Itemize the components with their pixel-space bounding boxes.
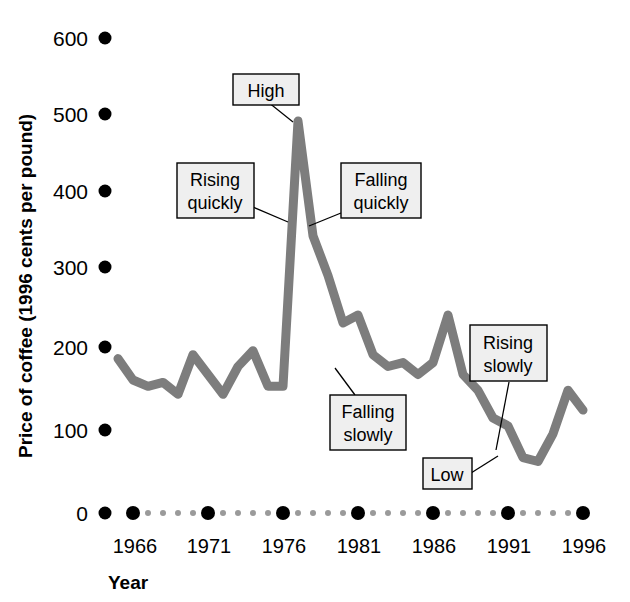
y-tick-500: 500 [53,103,112,126]
leader-falling-slowly [335,368,355,395]
x-tick-dot-1996 [576,506,590,520]
annotation-falling-slowly-line2: slowly [343,425,392,445]
x-minor-dot [565,510,571,516]
x-minor-dot [340,510,346,516]
y-axis: 600 500 400 300 200 100 [53,27,112,525]
x-minor-dot [400,510,406,516]
x-axis-baseline [126,506,590,520]
annotation-rising-slowly-line2: slowly [483,356,532,376]
y-tick-100: 100 [53,419,112,442]
y-tick-label-100: 100 [53,419,88,442]
annotation-falling-quickly[interactable]: Falling quickly [341,163,421,218]
annotation-rising-quickly[interactable]: Rising quickly [177,163,254,218]
x-tick-label-1996: 1996 [562,535,607,557]
y-axis-title: Price of coffee (1996 cents per pound) [15,114,36,458]
annotation-high[interactable]: High [233,74,299,105]
x-minor-dot [475,510,481,516]
x-minor-dot [220,510,226,516]
x-tick-dot-1966 [126,506,140,520]
x-minor-dot [235,510,241,516]
coffee-price-chart: 600 500 400 300 200 100 [0,0,630,602]
x-minor-dot [490,510,496,516]
x-minor-dot [145,510,151,516]
x-tick-dot-1981 [351,506,365,520]
x-minor-dot [445,510,451,516]
annotation-falling-slowly-line1: Falling [341,402,394,422]
annotation-rising-quickly-line2: quickly [187,193,242,213]
y-tick-300: 300 [53,256,112,279]
x-minor-dot [370,510,376,516]
x-tick-label-1966: 1966 [113,535,158,557]
annotation-low[interactable]: Low [423,458,472,489]
x-minor-dot [190,510,196,516]
x-minor-dot [325,510,331,516]
y-tick-400: 400 [53,180,112,203]
y-tick-dot [99,32,112,45]
x-axis-labels: 1966 1971 1976 1981 1986 1991 1996 [113,535,607,557]
annotation-high-label: High [247,81,284,101]
y-tick-0: 0 [76,502,111,525]
y-tick-label-300: 300 [53,256,88,279]
annotation-falling-quickly-line1: Falling [354,170,407,190]
x-minor-dot [550,510,556,516]
x-minor-dot [460,510,466,516]
x-tick-label-1986: 1986 [412,535,457,557]
y-tick-dot [99,341,112,354]
x-axis-title: Year [108,572,149,593]
x-minor-dot [175,510,181,516]
annotation-rising-slowly-line1: Rising [483,333,533,353]
y-tick-label-200: 200 [53,336,88,359]
leader-low [471,456,498,473]
y-tick-dot [99,507,112,520]
x-tick-label-1976: 1976 [262,535,307,557]
x-minor-dot [250,510,256,516]
x-tick-dot-1976 [276,506,290,520]
y-tick-600: 600 [53,27,112,50]
x-tick-dot-1991 [501,506,515,520]
annotation-rising-quickly-line1: Rising [190,170,240,190]
x-minor-dot [415,510,421,516]
x-minor-dot [520,510,526,516]
x-tick-label-1971: 1971 [187,535,232,557]
y-tick-dot [99,424,112,437]
annotation-falling-slowly[interactable]: Falling slowly [330,395,406,450]
x-tick-dot-1971 [201,506,215,520]
annotation-low-label: Low [430,465,464,485]
annotation-rising-slowly[interactable]: Rising slowly [470,325,547,381]
chart-svg: 600 500 400 300 200 100 [0,0,630,602]
leader-rising-quickly [253,207,288,222]
x-minor-dot [265,510,271,516]
x-minor-dot [310,510,316,516]
y-tick-dot [99,185,112,198]
x-minor-dot [295,510,301,516]
y-tick-dot [99,261,112,274]
y-tick-dot [99,108,112,121]
x-minor-dot [385,510,391,516]
y-tick-label-600: 600 [53,27,88,50]
y-tick-label-0: 0 [76,502,88,525]
x-minor-dot [535,510,541,516]
x-tick-label-1981: 1981 [337,535,382,557]
y-tick-label-400: 400 [53,180,88,203]
x-tick-dot-1986 [426,506,440,520]
x-minor-dot [160,510,166,516]
x-tick-label-1991: 1991 [487,535,532,557]
y-tick-label-500: 500 [53,103,88,126]
y-tick-200: 200 [53,336,112,359]
annotation-falling-quickly-line2: quickly [353,193,408,213]
